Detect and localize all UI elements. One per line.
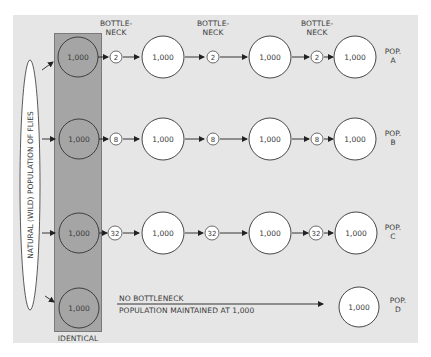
svg-text:1,000: 1,000 [345, 229, 367, 238]
no-bottleneck-label: NO BOTTLENECK [119, 294, 184, 303]
row-pop-a: 1,000 2 1,000 2 1,000 2 1,000 [58, 36, 376, 78]
svg-text:1,000: 1,000 [259, 53, 281, 62]
pop-label-c: POP. C [382, 223, 404, 241]
svg-text:8: 8 [211, 136, 215, 144]
svg-text:2: 2 [114, 54, 118, 62]
svg-text:1,000: 1,000 [68, 135, 90, 144]
svg-text:2: 2 [211, 54, 215, 62]
svg-text:1,000: 1,000 [68, 229, 90, 238]
svg-text:1,000: 1,000 [259, 135, 281, 144]
svg-text:1,000: 1,000 [152, 229, 174, 238]
arrow-to-founder-d [45, 296, 54, 302]
pop-label-d: POP. D [387, 296, 409, 314]
svg-text:1,000: 1,000 [344, 53, 366, 62]
svg-text:32: 32 [312, 230, 321, 238]
svg-text:2: 2 [315, 54, 319, 62]
arrow-to-founder-a [42, 62, 53, 70]
svg-text:32: 32 [111, 230, 120, 238]
population-maintained-label: POPULATION MAINTAINED AT 1,000 [119, 306, 254, 315]
svg-text:8: 8 [114, 136, 118, 144]
pop-label-a: POP. A [382, 47, 404, 65]
svg-text:1,000: 1,000 [152, 53, 174, 62]
wild-population-label: NATURAL (WILD) POPULATION OF FLIES [26, 111, 35, 258]
identical-label: IDENTICAL [54, 334, 102, 343]
pop-label-b: POP. B [382, 129, 404, 147]
row-pop-b: 1,000 8 1,000 8 1,000 8 1,000 [59, 118, 376, 160]
svg-text:1,000: 1,000 [344, 135, 366, 144]
svg-text:1,000: 1,000 [152, 135, 174, 144]
bottleneck-header-2: BOTTLE- NECK [197, 19, 229, 37]
founder-size-a: 1,000 [67, 53, 89, 62]
svg-text:1,000: 1,000 [68, 304, 90, 313]
row-pop-c: 1,000 32 1,000 32 1,000 32 1,000 [59, 212, 377, 254]
svg-text:8: 8 [315, 136, 319, 144]
svg-text:32: 32 [208, 230, 217, 238]
bottleneck-header-3: BOTTLE- NECK [301, 19, 333, 37]
svg-text:1,000: 1,000 [259, 229, 281, 238]
bottleneck-diagram: 1,000 2 1,000 2 1,000 2 1,000 1,000 8 1,… [0, 0, 431, 357]
bottleneck-header-1: BOTTLE- NECK [100, 19, 132, 37]
svg-text:1,000: 1,000 [348, 303, 370, 312]
